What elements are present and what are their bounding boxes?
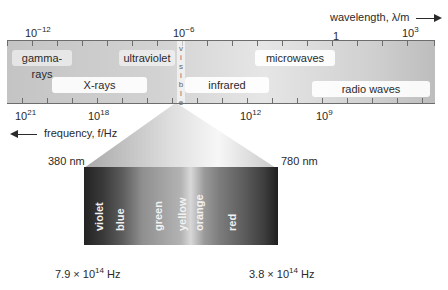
region-gamma-rays: gamma-rays [12,50,72,66]
frequency-3.8e14-label: 3.8 × 1014 Hz [249,268,314,280]
wavelength-tick-1e3: 103 [402,27,419,39]
frequency-tick-1e21: 1021 [15,110,36,122]
region-ultraviolet: ultraviolet [119,50,175,66]
wavelength-tick-1e-6: 10−6 [173,27,194,39]
color-label-violet: violet [93,202,105,231]
color-label-blue: blue [114,208,126,231]
wavelength-axis-label: wavelength, λ/m [330,11,409,23]
region-microwaves: microwaves [255,50,335,66]
region-infrared: infrared [185,77,269,93]
color-label-green: green [152,201,164,231]
em-spectrum-band: gamma-rays ultraviolet microwaves X-rays… [7,40,435,104]
frequency-arrow-line [17,134,37,135]
wavelength-780nm-label: 780 nm [281,155,318,167]
wavelength-380nm-label: 380 nm [48,155,85,167]
visible-expansion-cone [84,104,276,168]
wavelength-tick-1e-12: 10−12 [25,27,51,39]
color-label-red: red [226,214,238,231]
region-radio-waves: radio waves [312,81,430,97]
wavelength-arrow-icon [434,14,442,22]
visible-spectrum-strip: violet blue green yellow orange red [84,167,278,245]
region-x-rays: X-rays [52,77,147,93]
wavelength-arrow-line [416,18,436,19]
frequency-tick-1e9: 109 [316,110,333,122]
color-label-yellow: yellow [176,197,188,231]
region-visible: v i s i b l e [177,41,185,103]
color-label-orange: orange [193,194,205,231]
frequency-7.9e14-label: 7.9 × 1014 Hz [55,268,120,280]
